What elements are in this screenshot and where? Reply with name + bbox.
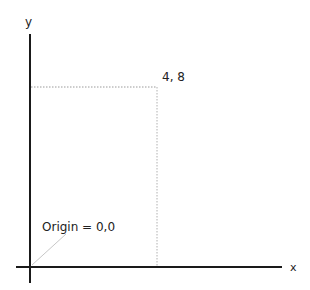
origin-label: Origin = 0,0 [42,221,115,233]
origin-pointer-line [32,234,66,265]
y-axis-label: y [25,16,32,28]
x-axis-label: x [290,262,297,273]
coordinate-diagram [0,0,310,290]
point-label: 4, 8 [162,71,185,83]
